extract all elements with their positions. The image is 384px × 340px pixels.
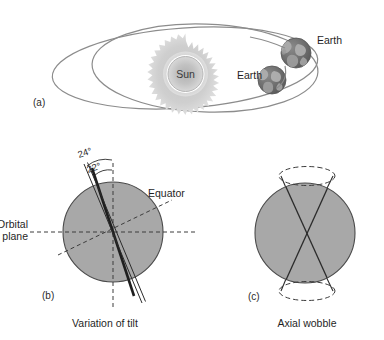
figure-canvas: Sun Earth (0, 0, 384, 340)
sun-label: Sun (176, 68, 195, 80)
figure-milankovitch-cycles: Sun Earth (0, 0, 384, 340)
panel-c-caption: Axial wobble (278, 317, 337, 329)
earth-label-outer: Earth (317, 34, 342, 46)
panel-c-tag: (c) (248, 291, 260, 302)
equator-label: Equator (148, 187, 185, 199)
panel-a-tag: (a) (33, 97, 45, 108)
panel-b-tag: (b) (42, 290, 54, 301)
earth-disc-c (255, 183, 355, 283)
panel-b-caption: Variation of tilt (72, 317, 138, 329)
orbital-plane-label-line2: plane (2, 230, 28, 242)
earth-label-inner: Earth (237, 69, 262, 81)
orbital-plane-label-line1: Orbital (0, 218, 28, 230)
